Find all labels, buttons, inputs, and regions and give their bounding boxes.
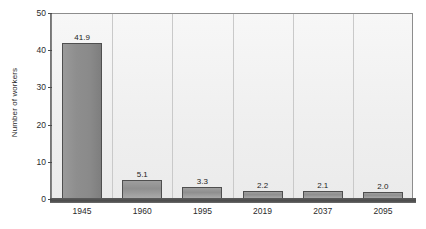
y-axis-tick-mark — [48, 50, 52, 51]
x-axis-tick-label: 1995 — [193, 206, 212, 216]
bar-value-label: 2.2 — [257, 181, 268, 190]
category-separator — [293, 14, 294, 199]
y-axis-tick-labels: 01020304050 — [24, 0, 46, 229]
y-axis-tick-mark — [48, 199, 52, 200]
y-axis-tick-mark — [48, 125, 52, 126]
y-axis-tick-label: 40 — [37, 45, 46, 55]
plot-area: 41.95.13.32.22.12.0 — [52, 13, 413, 199]
category-separator — [112, 14, 113, 199]
x-axis-tick-label: 1960 — [133, 206, 152, 216]
bar — [122, 180, 162, 199]
category-separator — [172, 14, 173, 199]
bar — [62, 43, 102, 199]
category-separator — [233, 14, 234, 199]
y-axis-title-text: Number of workers — [11, 68, 20, 137]
category-separator — [353, 14, 354, 199]
x-axis-tick-label: 2095 — [373, 206, 392, 216]
y-axis-title: Number of workers — [6, 0, 24, 205]
x-axis-tick-label: 2037 — [313, 206, 332, 216]
y-axis-tick-label: 30 — [37, 82, 46, 92]
y-axis-tick-mark — [48, 162, 52, 163]
y-axis-tick-label: 10 — [37, 157, 46, 167]
x-axis-tick-label: 2019 — [253, 206, 272, 216]
x-axis-tick-labels: 194519601995201920372095 — [0, 206, 426, 224]
bar-chart-figure: Number of workers 01020304050 41.95.13.3… — [0, 0, 426, 229]
x-axis-line — [50, 198, 416, 203]
y-axis-tick-mark — [48, 87, 52, 88]
bar-value-label: 5.1 — [137, 170, 148, 179]
y-axis-tick-label: 20 — [37, 120, 46, 130]
bar-value-label: 2.1 — [317, 181, 328, 190]
bar-value-label: 2.0 — [377, 182, 388, 191]
bar-value-label: 3.3 — [197, 177, 208, 186]
bar-value-label: 41.9 — [74, 33, 90, 42]
y-axis-tick-mark — [48, 13, 52, 14]
x-axis-tick-label: 1945 — [73, 206, 92, 216]
y-axis-tick-label: 50 — [37, 8, 46, 18]
y-axis-tick-label: 0 — [41, 194, 46, 204]
